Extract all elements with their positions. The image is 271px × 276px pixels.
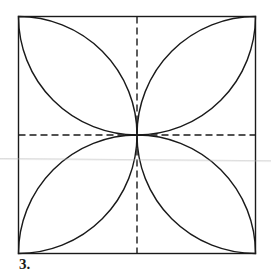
petal-bottom-left [19, 135, 138, 254]
petal-bottom-right [137, 135, 256, 254]
petal-top-left [19, 17, 138, 136]
figure-caption: 3. [19, 256, 30, 273]
quilt-pattern-diagram [0, 0, 271, 276]
petal-top-right [137, 17, 256, 136]
